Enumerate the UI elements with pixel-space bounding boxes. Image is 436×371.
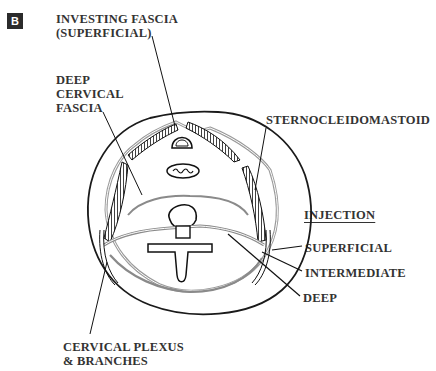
vertebral-body bbox=[169, 205, 196, 228]
leader-investing bbox=[152, 36, 175, 126]
leader-superficial bbox=[272, 246, 302, 250]
spinous-process bbox=[148, 244, 212, 282]
scm-right bbox=[242, 166, 266, 242]
vertebral-canal bbox=[176, 226, 190, 238]
neck-cross-section-diagram bbox=[0, 0, 436, 371]
strap-muscle-left bbox=[128, 124, 178, 160]
leader-scm bbox=[255, 128, 266, 190]
leader-cervical-plexus bbox=[90, 262, 107, 334]
